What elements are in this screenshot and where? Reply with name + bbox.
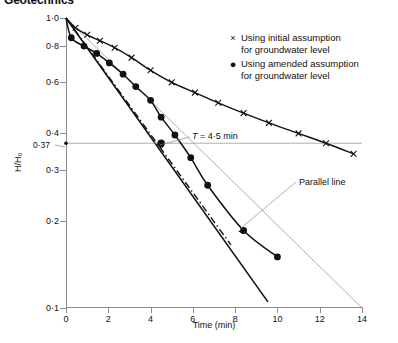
- data-point-initial: [192, 90, 198, 96]
- data-point-initial: [148, 67, 154, 73]
- data-point-amended: [171, 132, 178, 139]
- data-point-amended: [274, 254, 281, 261]
- legend-label-initial-line2: for groundwater level: [241, 44, 330, 55]
- data-point-amended: [147, 97, 154, 104]
- annotation-parallel-line: Parallel line: [299, 177, 346, 187]
- data-point-initial: [351, 151, 357, 157]
- legend-label-initial: Using initial assumption for groundwater…: [241, 32, 396, 55]
- data-point-initial: [215, 100, 221, 106]
- data-point-initial: [129, 55, 135, 61]
- data-point-initial: [169, 79, 175, 85]
- cross-marker-icon: ×: [228, 33, 238, 44]
- legend: × Using initial assumption for groundwat…: [228, 32, 396, 84]
- annotation-y-0p37: 0·37: [33, 140, 50, 150]
- data-point-amended: [93, 50, 100, 57]
- legend-label-amended-line2: for groundwater level: [241, 70, 330, 81]
- data-point-amended: [68, 34, 75, 41]
- legend-label-amended: Using amended assumption for groundwater…: [241, 58, 396, 81]
- data-point-amended: [187, 154, 194, 161]
- y-axis-marker-0p37: [64, 141, 68, 145]
- data-point-initial: [112, 45, 118, 51]
- parallel-line-leader: [241, 182, 296, 228]
- data-point-initial: [241, 110, 247, 116]
- legend-label-amended-line1: Using amended assumption: [241, 58, 359, 69]
- data-point-amended: [106, 60, 113, 67]
- chart-page: Geotechnics 1·00·80·60·40·30·20·1 024681…: [0, 0, 398, 343]
- data-point-initial: [97, 38, 103, 44]
- data-point-amended: [158, 114, 165, 121]
- annotation-t-value-text: = 4·5 min: [198, 131, 238, 141]
- data-point-amended: [204, 182, 211, 189]
- annotation-leader-layer: [55, 137, 296, 234]
- data-point-amended: [120, 71, 127, 78]
- legend-item-amended: ● Using amended assumption for groundwat…: [228, 58, 396, 81]
- annotation-t-value: T = 4·5 min: [192, 131, 238, 141]
- legend-label-initial-line1: Using initial assumption: [241, 32, 341, 43]
- filled-circle-marker-icon: ●: [228, 59, 238, 70]
- data-point-amended: [132, 83, 139, 90]
- data-point-amended: [81, 43, 88, 50]
- y037-leader: [55, 145, 65, 147]
- data-point-initial: [266, 120, 272, 126]
- legend-item-initial: × Using initial assumption for groundwat…: [228, 32, 396, 55]
- data-point-initial: [84, 32, 90, 38]
